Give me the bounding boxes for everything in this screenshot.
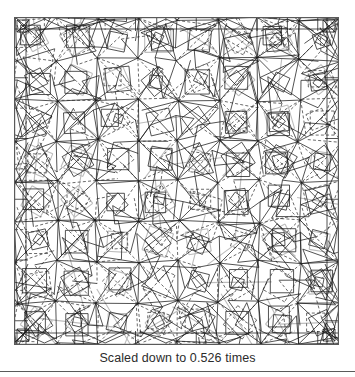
crease-pattern-figure bbox=[14, 17, 339, 345]
bottom-rule bbox=[0, 371, 355, 372]
figure-caption: Scaled down to 0.526 times bbox=[0, 350, 355, 366]
caption-block: Scaled down to 0.526 times bbox=[0, 347, 355, 377]
page-root: Scaled down to 0.526 times bbox=[0, 0, 355, 377]
figure-area bbox=[0, 0, 355, 348]
